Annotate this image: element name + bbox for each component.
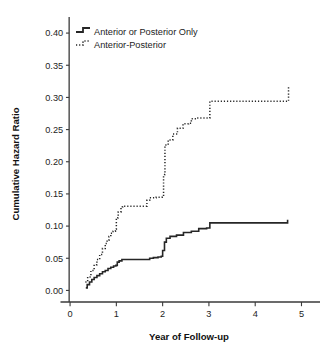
y-tick-label: 0.25 <box>45 125 63 135</box>
legend: Anterior or Posterior Only Anterior-Post… <box>76 27 198 50</box>
x-tick-label: 4 <box>253 309 258 319</box>
y-tick-label: 0.30 <box>45 93 63 103</box>
x-tick-label: 5 <box>299 309 304 319</box>
x-axis-tick-labels: 012345 <box>68 309 305 319</box>
x-axis-title: Year of Follow-up <box>149 331 229 342</box>
y-tick-label: 0.00 <box>45 286 63 296</box>
x-tick-label: 3 <box>206 309 211 319</box>
y-tick-label: 0.20 <box>45 157 63 167</box>
y-tick-label: 0.35 <box>45 61 63 71</box>
solid-step-line-icon <box>76 28 90 32</box>
legend-item-label-1: Anterior-Posterior <box>94 40 166 50</box>
y-tick-label: 0.10 <box>45 221 63 231</box>
figure-container: 0.000.050.100.150.200.250.300.350.40 012… <box>0 0 331 359</box>
series-anterior-or-posterior-only <box>86 220 288 288</box>
y-axis-title: Cumulative Hazard Ratio <box>10 107 21 220</box>
cumulative-hazard-ratio-chart: 0.000.050.100.150.200.250.300.350.40 012… <box>0 0 331 359</box>
series-anterior-posterior <box>85 86 288 282</box>
dotted-step-line-icon <box>76 41 90 45</box>
axes-group: 0.000.050.100.150.200.250.300.350.40 012… <box>45 17 320 319</box>
y-axis-tick-labels: 0.000.050.100.150.200.250.300.350.40 <box>45 28 63 295</box>
y-tick-label: 0.05 <box>45 254 63 264</box>
legend-item-label-0: Anterior or Posterior Only <box>94 27 198 37</box>
x-tick-label: 2 <box>160 309 165 319</box>
x-tick-label: 1 <box>114 309 119 319</box>
y-tick-label: 0.15 <box>45 189 63 199</box>
y-tick-label: 0.40 <box>45 28 63 38</box>
data-series-group <box>85 86 288 288</box>
x-tick-label: 0 <box>68 309 73 319</box>
